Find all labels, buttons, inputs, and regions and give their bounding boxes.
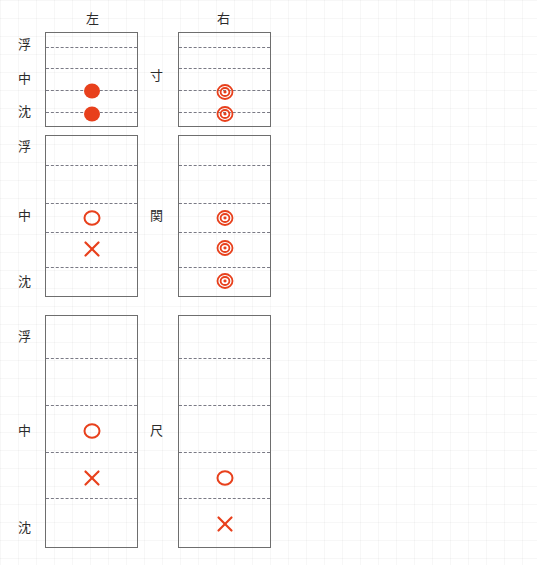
panel-gridline	[179, 267, 270, 268]
depth-axis-label: 浮	[13, 38, 35, 52]
marker-double-circle-icon	[214, 207, 236, 229]
marker-double-circle-icon	[214, 103, 236, 125]
depth-axis-label: 浮	[13, 330, 35, 344]
panel-gridline	[179, 68, 270, 69]
column-header-right: 右	[203, 12, 243, 26]
panel-gridline	[46, 68, 137, 69]
panel-gridline	[179, 405, 270, 406]
position-label-shaku: 尺	[145, 424, 167, 438]
depth-axis-label: 沈	[13, 521, 35, 535]
panel-gridline	[46, 405, 137, 406]
panel-gridline	[179, 498, 270, 499]
position-label-sun: 寸	[145, 69, 167, 83]
panel-gridline	[46, 47, 137, 48]
panel-gridline	[179, 358, 270, 359]
panel-gridline	[46, 358, 137, 359]
marker-double-circle-icon	[214, 81, 236, 103]
panel-gridline	[179, 165, 270, 166]
panel-gridline	[46, 232, 137, 233]
panel-gridline	[46, 498, 137, 499]
panel-gridline	[46, 452, 137, 453]
marker-open-circle-icon	[214, 467, 236, 489]
depth-axis-label: 沈	[13, 275, 35, 289]
pulse-diagnosis-chart: 左右浮中沈浮中沈浮中沈寸関尺	[0, 0, 537, 565]
marker-filled-circle-icon	[81, 103, 103, 125]
depth-axis-label: 中	[13, 424, 35, 438]
panel-gridline	[179, 203, 270, 204]
panel-gridline	[179, 47, 270, 48]
marker-cross-icon	[214, 513, 236, 535]
panel-gridline	[179, 232, 270, 233]
marker-open-circle-icon	[81, 207, 103, 229]
panel-gridline	[179, 452, 270, 453]
column-header-left: 左	[72, 12, 112, 26]
marker-cross-icon	[81, 467, 103, 489]
panel-gridline	[46, 267, 137, 268]
panel-gridline	[46, 165, 137, 166]
depth-axis-label: 中	[13, 209, 35, 223]
depth-axis-label: 浮	[13, 140, 35, 154]
depth-axis-label: 沈	[13, 105, 35, 119]
marker-open-circle-icon	[81, 420, 103, 442]
marker-double-circle-icon	[214, 237, 236, 259]
depth-axis-label: 中	[13, 72, 35, 86]
position-label-kan: 関	[145, 209, 167, 223]
marker-double-circle-icon	[214, 270, 236, 292]
marker-filled-circle-icon	[81, 80, 103, 102]
marker-cross-icon	[81, 238, 103, 260]
panel-gridline	[46, 203, 137, 204]
